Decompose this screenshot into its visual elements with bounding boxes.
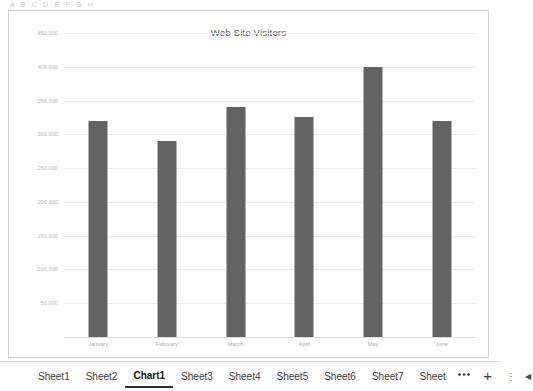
add-sheet-icon[interactable]: + [475,369,500,384]
x-axis-line [64,337,476,338]
bar-slot: June [407,33,476,337]
y-axis-tick-label: 400,000 [37,64,58,70]
bar-slot: April [270,33,339,337]
sheet-tab-bar[interactable]: Sheet1Sheet2Chart1Sheet3Sheet4Sheet5Shee… [0,361,501,391]
y-axis-tick-label: 150,000 [37,233,58,239]
chart-plot-area: 450,000400,000350,000300,000250,000200,0… [64,33,476,337]
x-axis-tick-label: June [436,341,448,347]
y-axis-tick-label: 300,000 [37,131,58,137]
y-axis-tick-label: 50,000 [41,300,58,306]
chart-bar[interactable] [89,121,108,337]
y-axis-tick-label: 350,000 [37,98,58,104]
sheet-tab-sheet3[interactable]: Sheet3 [173,367,221,387]
sheet-tab-sheet1[interactable]: Sheet1 [30,367,78,387]
sheet-tab-sheet[interactable]: Sheet [412,367,454,387]
sheet-tab-sheet7[interactable]: Sheet7 [364,367,412,387]
y-axis-tick-label: 200,000 [37,199,58,205]
overflow-ellipsis-icon[interactable]: ••• [454,368,476,386]
sheet-tab-sheet2[interactable]: Sheet2 [78,367,126,387]
clipped-column-header-row: A B C D E F G H [0,0,501,7]
sheet-tab-sheet6[interactable]: Sheet6 [316,367,364,387]
x-axis-tick-label: March [228,341,243,347]
chart-object[interactable]: Web Site Visitors 450,000400,000350,0003… [8,10,489,358]
x-axis-tick-label: May [368,341,378,347]
bar-slot: February [133,33,202,337]
y-axis-tick-label: 450,000 [37,30,58,36]
y-axis-tick-label: 250,000 [37,165,58,171]
bar-slot: March [201,33,270,337]
x-axis-tick-label: January [88,341,108,347]
scroll-left-arrow-icon[interactable]: ◀ [524,372,533,381]
y-axis-tick-label: 100,000 [37,266,58,272]
chart-bar[interactable] [295,117,314,337]
chart-bars: JanuaryFebruaryMarchAprilMayJune [64,33,476,337]
chart-bar[interactable] [157,141,176,337]
sheet-tab-sheet5[interactable]: Sheet5 [269,367,317,387]
sheet-tab-chart1[interactable]: Chart1 [125,366,173,388]
x-axis-tick-label: February [156,341,178,347]
chart-bar[interactable] [432,121,451,337]
bar-slot: January [64,33,133,337]
chart-bar[interactable] [226,107,245,337]
x-axis-tick-label: April [299,341,310,347]
sheet-tabs-container: Sheet1Sheet2Chart1Sheet3Sheet4Sheet5Shee… [30,366,454,388]
bar-slot: May [339,33,408,337]
chart-bar[interactable] [363,67,382,337]
sheet-tab-sheet4[interactable]: Sheet4 [221,367,269,387]
more-options-icon[interactable]: ⋮ [500,370,522,383]
